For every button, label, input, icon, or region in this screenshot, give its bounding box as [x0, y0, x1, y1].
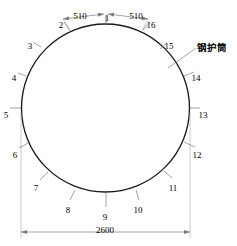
segment-label-15: 15 [162, 35, 176, 53]
segment-label-text-14: 14 [192, 73, 201, 83]
segment-label-11: 11 [166, 177, 180, 195]
segment-label-text-13: 13 [199, 110, 208, 120]
dimension-value-dim-chord-left: 510 [73, 11, 87, 21]
segment-label-text-3: 3 [28, 41, 33, 51]
segment-label-12: 12 [190, 144, 204, 162]
segment-label-13: 13 [196, 104, 210, 122]
segment-label-text-10: 10 [134, 205, 143, 215]
segment-label-text-6: 6 [13, 150, 18, 160]
segment-label-text-1: 1 [105, 13, 110, 23]
segment-label-text-8: 8 [66, 205, 71, 215]
segment-label-7: 7 [29, 177, 43, 195]
annotation-label: 钢护筒 [197, 42, 227, 53]
segment-label-1: 1 [100, 7, 114, 25]
dimension-value-dim-chord-right: 510 [129, 11, 143, 21]
segment-label-8: 8 [61, 199, 75, 217]
segment-label-14: 14 [189, 67, 203, 85]
arrowhead-start-dim-diameter [21, 230, 27, 234]
arrowhead-end-dim-diameter [184, 230, 190, 234]
segment-label-text-5: 5 [4, 110, 9, 120]
segment-label-text-15: 15 [165, 41, 174, 51]
segment-label-text-12: 12 [193, 150, 202, 160]
dimension-value-dim-diameter: 2600 [96, 225, 114, 235]
segment-label-5: 5 [0, 104, 13, 122]
segment-label-text-11: 11 [169, 183, 178, 193]
segment-label-text-4: 4 [12, 73, 17, 83]
segment-label-4: 4 [7, 67, 21, 85]
dimension-text-dim-chord-left: 510 [60, 5, 100, 23]
segment-label-text-7: 7 [34, 183, 39, 193]
segment-label-10: 10 [131, 199, 145, 217]
dimension-text-dim-chord-right: 510 [116, 5, 156, 23]
segment-label-6: 6 [8, 144, 22, 162]
segment-label-3: 3 [23, 35, 37, 53]
dimension-text-dim-diameter: 2600 [85, 219, 125, 237]
steel-casing-annotation: 钢护筒 [197, 37, 227, 55]
technical-drawing-canvas: 12345678910111213141516 5105102600 钢护筒 [0, 0, 237, 246]
